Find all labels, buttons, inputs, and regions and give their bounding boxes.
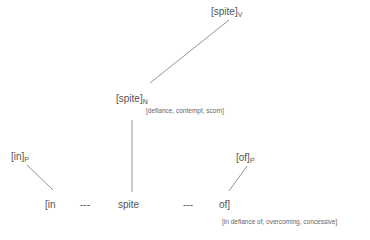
- node-spite-noun: [spite]N: [116, 94, 148, 105]
- gloss-spite-noun: [defiance, contempt, scorn]: [146, 108, 224, 115]
- surface-dash-2: ---: [183, 200, 193, 210]
- node-in-preposition: [in]P: [11, 152, 29, 163]
- node-in-text: [in]: [11, 151, 24, 162]
- edge-spite-v-to-spite-n: [150, 20, 229, 83]
- node-spite-verb-subscript: V: [238, 11, 243, 18]
- edge-of-p-to-of: [229, 166, 247, 191]
- node-spite-noun-subscript: N: [143, 98, 148, 105]
- surface-word-in: [in: [45, 200, 56, 210]
- node-in-subscript: P: [24, 156, 29, 163]
- surface-word-of: of]: [219, 200, 230, 210]
- surface-dash-1: ---: [80, 200, 90, 210]
- node-spite-verb: [spite]V: [211, 7, 242, 18]
- node-spite-verb-text: [spite]: [211, 6, 238, 17]
- surface-word-spite: spite: [118, 200, 139, 210]
- node-spite-noun-text: [spite]: [116, 93, 143, 104]
- node-of-subscript: P: [250, 157, 255, 164]
- edge-in-p-to-in: [27, 165, 53, 190]
- node-of-preposition: [of]P: [236, 153, 255, 164]
- gloss-surface-phrase: [in defiance of, overcoming, concessive]: [222, 219, 337, 226]
- node-of-text: [of]: [236, 152, 250, 163]
